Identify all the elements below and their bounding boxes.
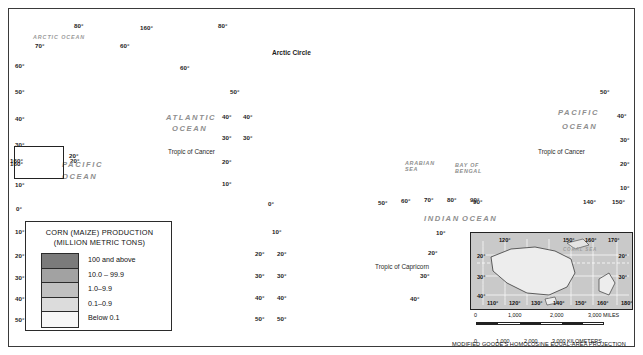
australia-inset-graticule-label: 20° <box>619 253 627 259</box>
australia-inset-graticule-label: 160° <box>585 237 597 243</box>
legend-swatch <box>42 269 78 284</box>
australia-inset-graticule-label: 160° <box>597 300 609 306</box>
australia-inset-box: CORAL SEA 120°150°160°170° 110°120°130°1… <box>470 232 633 310</box>
australia-inset-graticule-label: 150° <box>575 300 587 306</box>
coral-sea-label: CORAL SEA <box>563 247 597 252</box>
legend-swatch <box>42 283 78 298</box>
legend-swatch <box>42 312 78 327</box>
legend-title-line1: CORN (MAIZE) PRODUCTION <box>26 228 173 238</box>
scale-tick-label: 1,000 <box>508 312 522 318</box>
legend-label-column: 100 and above10.0 – 99.91.0–9.90.1–0.9Be… <box>88 253 136 326</box>
legend-title: CORN (MAIZE) PRODUCTION (MILLION METRIC … <box>26 228 173 248</box>
australia-inset-graticule-label: 30° <box>477 274 485 280</box>
australia-inset-graticule-label: 120° <box>509 300 521 306</box>
hawaii-inset-box <box>14 146 64 179</box>
australia-inset-graticule-label: 120° <box>499 237 511 243</box>
australia-inset-graticule-label: 30° <box>619 274 627 280</box>
australia-inset-graphic <box>471 233 633 310</box>
australia-inset-graticule-label: 140° <box>553 300 565 306</box>
legend-class-label: 0.1–0.9 <box>88 297 136 312</box>
scale-tick-label: 3,000 MILES <box>588 312 619 318</box>
legend-class-label: 1.0–9.9 <box>88 282 136 297</box>
australia-inset-graticule-label: 150° <box>563 237 575 243</box>
australia-inset-graticule-label: 170° <box>608 237 620 243</box>
scale-tick-label: 0 <box>474 312 477 318</box>
australia-inset-graticule-label: 110° <box>487 300 498 306</box>
legend-swatch-column <box>41 253 79 328</box>
legend-class-label: 10.0 – 99.9 <box>88 268 136 283</box>
map-legend: CORN (MAIZE) PRODUCTION (MILLION METRIC … <box>25 221 172 331</box>
projection-note: MODIFIED GOODE'S HOMOLOSINE EQUAL-AREA P… <box>443 341 635 347</box>
scale-tick-label: 2,000 <box>550 312 564 318</box>
legend-swatch <box>42 298 78 313</box>
australia-inset-graticule-label: 20° <box>477 253 485 259</box>
australia-inset-graticule-label: 130° <box>531 300 543 306</box>
legend-title-line2: (MILLION METRIC TONS) <box>26 238 173 248</box>
australia-inset-graticule-label: 180° <box>621 300 633 306</box>
legend-class-label: Below 0.1 <box>88 311 136 326</box>
map-screenshot: 80°70°60°50°40°30°20°160°10°0°10°20°30°4… <box>0 0 643 355</box>
legend-class-label: 100 and above <box>88 253 136 268</box>
australia-inset-graticule-label: 40° <box>477 293 485 299</box>
legend-swatch <box>42 254 78 269</box>
miles-scale-bar <box>476 322 604 325</box>
